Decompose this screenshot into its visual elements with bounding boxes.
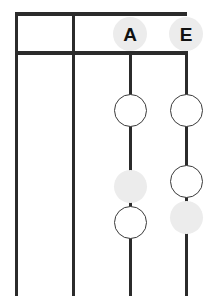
node-open[interactable] (170, 94, 203, 127)
top-rule (15, 12, 187, 16)
diagram-canvas: AE (0, 0, 218, 296)
left-border (15, 12, 18, 296)
column-label-badge[interactable]: A (113, 17, 147, 51)
node-open[interactable] (114, 94, 147, 127)
node-open[interactable] (170, 165, 203, 198)
second-rule (15, 51, 187, 55)
column-divider (72, 12, 75, 296)
column-label-badge[interactable]: E (169, 17, 203, 51)
node-filled[interactable] (114, 170, 147, 203)
node-filled[interactable] (170, 201, 203, 234)
node-open[interactable] (114, 206, 147, 239)
